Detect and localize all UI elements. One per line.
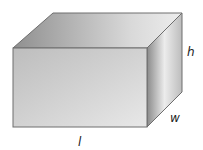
height-label: h	[187, 45, 195, 59]
cuboid-diagram: h w l	[0, 0, 203, 150]
length-label: l	[78, 135, 82, 149]
width-label: w	[170, 111, 180, 125]
front-face	[13, 48, 147, 127]
